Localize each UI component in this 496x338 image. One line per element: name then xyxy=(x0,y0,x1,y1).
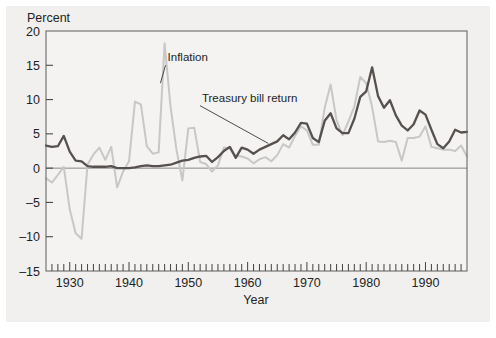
x-tick-label: 1940 xyxy=(115,276,143,290)
y-tick-label: 5 xyxy=(33,127,40,141)
figure-page: –15–10–505101520 19301940195019601970198… xyxy=(0,0,496,338)
y-tick-label: 15 xyxy=(26,59,40,73)
treasury-annotation-label: Treasury bill return xyxy=(202,92,297,104)
y-tick-label: 20 xyxy=(26,25,40,39)
inflation-annotation-label: Inflation xyxy=(168,51,208,63)
x-tick-label: 1930 xyxy=(56,276,84,290)
x-axis-title: Year xyxy=(243,293,268,307)
x-tick-label: 1950 xyxy=(174,276,202,290)
percent-vs-year-line-chart: –15–10–505101520 19301940195019601970198… xyxy=(0,0,496,338)
x-tick-label: 1990 xyxy=(412,276,440,290)
y-axis-tick-labels: –15–10–505101520 xyxy=(19,25,40,279)
x-tick-label: 1970 xyxy=(293,276,321,290)
y-axis-title: Percent xyxy=(27,11,71,25)
y-tick-label: –10 xyxy=(19,230,40,244)
y-tick-label: 0 xyxy=(33,162,40,176)
x-axis-tick-labels: 1930194019501960197019801990 xyxy=(56,276,440,290)
y-tick-label: –5 xyxy=(26,196,40,210)
x-tick-label: 1960 xyxy=(234,276,262,290)
y-tick-label: –15 xyxy=(19,265,40,279)
y-tick-label: 10 xyxy=(26,93,40,107)
x-tick-label: 1980 xyxy=(352,276,380,290)
